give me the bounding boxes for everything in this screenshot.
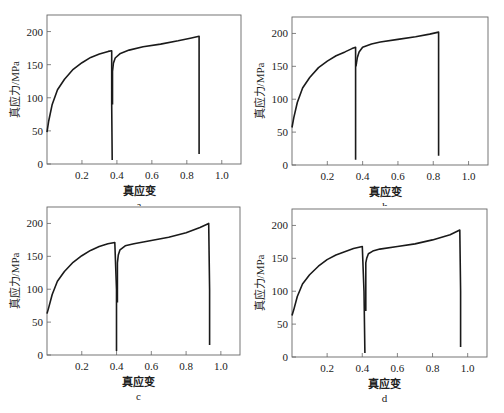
stress-strain-curve <box>47 243 117 352</box>
y-tick-label: 0 <box>38 158 44 170</box>
chart-panel-b: 0.20.40.60.81.0050100150200真应变真应力/MPab <box>252 0 504 206</box>
x-axis-label: 真应变 <box>122 375 155 388</box>
x-tick-label: 0.8 <box>180 169 194 181</box>
y-tick-label: 0 <box>283 351 289 363</box>
x-tick-label: 1.0 <box>461 362 475 374</box>
x-tick-label: 0.2 <box>320 170 334 182</box>
chart-plot: 0.20.40.60.81.0050100150200真应变真应力/MPad <box>252 206 504 413</box>
x-tick-label: 0.4 <box>355 362 369 374</box>
chart-panel-d: 0.20.40.60.81.0050100150200真应变真应力/MPad <box>252 206 504 413</box>
x-axis-label: 真应变 <box>123 184 156 197</box>
y-axis-label: 真应力/MPa <box>8 252 21 309</box>
stress-strain-curve <box>47 51 112 160</box>
y-axis-label: 真应力/MPa <box>8 61 21 118</box>
x-tick-label: 1.0 <box>214 360 228 372</box>
y-tick-label: 200 <box>27 217 44 229</box>
y-tick-label: 100 <box>27 283 44 295</box>
x-tick-label: 0.6 <box>145 169 159 181</box>
x-tick-label: 0.4 <box>110 360 124 372</box>
y-tick-label: 150 <box>27 250 44 262</box>
y-tick-label: 100 <box>27 92 44 104</box>
y-tick-label: 50 <box>32 125 44 137</box>
x-tick-label: 1.0 <box>215 169 229 181</box>
plot-frame <box>47 207 240 355</box>
x-tick-label: 0.2 <box>75 360 89 372</box>
panel-caption: a <box>137 199 142 206</box>
x-tick-label: 1.0 <box>462 170 476 182</box>
plot-frame <box>292 17 488 165</box>
chart-panel-a: 0.20.40.60.81.0050100150200真应变真应力/MPaa <box>0 0 252 206</box>
x-tick-label: 0.8 <box>426 362 440 374</box>
y-tick-label: 0 <box>283 159 289 171</box>
y-tick-label: 150 <box>272 60 289 72</box>
y-tick-label: 200 <box>27 26 44 38</box>
y-tick-label: 150 <box>272 252 289 264</box>
chart-plot: 0.20.40.60.81.0050100150200真应变真应力/MPab <box>252 0 504 206</box>
x-axis-label: 真应变 <box>368 377 401 390</box>
y-tick-label: 100 <box>272 93 289 105</box>
x-tick-label: 0.6 <box>391 362 405 374</box>
stress-strain-curve <box>292 247 365 354</box>
stress-strain-curve <box>356 32 439 156</box>
stress-strain-curve <box>292 47 356 159</box>
stress-strain-curve <box>366 230 461 347</box>
x-tick-label: 0.4 <box>110 169 124 181</box>
panel-caption: c <box>136 390 141 402</box>
x-tick-label: 0.6 <box>391 170 405 182</box>
stress-strain-curve <box>113 36 200 154</box>
y-tick-label: 50 <box>277 318 289 330</box>
y-tick-label: 0 <box>38 349 44 361</box>
chart-plot: 0.20.40.60.81.0050100150200真应变真应力/MPaa <box>0 0 252 206</box>
y-tick-label: 200 <box>272 27 289 39</box>
plot-frame <box>47 15 241 164</box>
chart-panel-c: 0.20.40.60.81.0050100150200真应变真应力/MPac <box>0 206 252 413</box>
x-tick-label: 0.2 <box>75 169 89 181</box>
x-tick-label: 0.8 <box>426 170 440 182</box>
stress-strain-curve <box>117 223 209 345</box>
y-axis-label: 真应力/MPa <box>253 254 266 311</box>
chart-plot: 0.20.40.60.81.0050100150200真应变真应力/MPac <box>0 206 252 413</box>
y-tick-label: 100 <box>272 285 289 297</box>
y-tick-label: 150 <box>27 59 44 71</box>
y-tick-label: 200 <box>272 219 289 231</box>
x-tick-label: 0.4 <box>356 170 370 182</box>
x-tick-label: 0.2 <box>320 362 334 374</box>
y-tick-label: 50 <box>32 316 44 328</box>
y-tick-label: 50 <box>277 126 289 138</box>
panel-caption: d <box>382 392 388 404</box>
y-axis-label: 真应力/MPa <box>253 62 266 119</box>
x-tick-label: 0.6 <box>144 360 158 372</box>
x-tick-label: 0.8 <box>179 360 193 372</box>
x-axis-label: 真应变 <box>369 185 402 198</box>
